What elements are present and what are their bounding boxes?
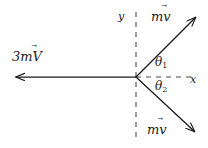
vector-label-3mV-prefix: 3m bbox=[12, 49, 33, 64]
angle-subscript-theta-1: 1 bbox=[162, 61, 167, 70]
vector-label-mv-lower-symbol: v⃗ bbox=[159, 123, 166, 136]
vector-label-mv-lower-prefix: m bbox=[147, 122, 159, 137]
axis-label-y: y bbox=[118, 11, 124, 22]
angle-subscript-theta-2: 2 bbox=[162, 85, 167, 94]
vector-diagram: 3mV⃗ mv⃗ mv⃗ y x θ1 θ2 bbox=[0, 0, 208, 148]
angle-label-theta-1: θ1 bbox=[155, 56, 167, 70]
axis-label-x: x bbox=[190, 74, 196, 85]
vector-label-mv-lower: mv⃗ bbox=[147, 123, 167, 136]
angle-label-theta-2: θ2 bbox=[155, 80, 167, 94]
vector-label-3mV: 3mV⃗ bbox=[12, 50, 42, 63]
vector-label-3mV-symbol: V⃗ bbox=[33, 50, 42, 63]
vector-label-mv-upper: mv⃗ bbox=[151, 10, 171, 23]
vector-label-mv-upper-prefix: m bbox=[151, 9, 163, 24]
vector-diagram-canvas bbox=[0, 0, 208, 148]
vector-label-mv-upper-symbol: v⃗ bbox=[163, 10, 170, 23]
